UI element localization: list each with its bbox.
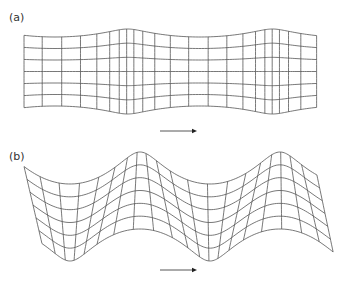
grid-column-line <box>302 165 320 242</box>
grid-column-line <box>114 158 128 235</box>
grid-column-line <box>290 156 302 233</box>
grid-column-line <box>40 177 55 254</box>
panel-a-grid <box>24 29 317 114</box>
figure-canvas <box>0 0 342 285</box>
grid-column-line <box>156 161 172 238</box>
grid-column-line <box>170 171 188 248</box>
grid-row-line <box>24 152 317 184</box>
grid-row-line <box>27 165 320 197</box>
grid-column-line <box>97 167 115 244</box>
grid-column-line <box>24 167 42 244</box>
grid-column-line <box>188 180 200 257</box>
grid-row-line <box>30 178 322 210</box>
panel-b-grid <box>24 152 333 261</box>
arrow-head-icon <box>192 268 197 272</box>
grid-column-line <box>146 154 154 231</box>
arrow-head-icon <box>192 129 197 133</box>
panel-b-arrow <box>160 268 197 272</box>
grid-column-line <box>281 152 282 229</box>
grid-column-line <box>218 181 228 258</box>
panel-a-arrow <box>160 129 197 133</box>
grid-column-line <box>262 155 272 232</box>
grid-column-line <box>59 183 65 260</box>
grid-column-line <box>84 177 99 254</box>
grid-column-line <box>317 175 333 252</box>
